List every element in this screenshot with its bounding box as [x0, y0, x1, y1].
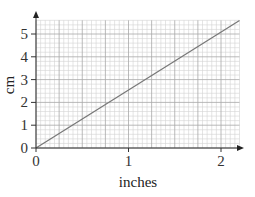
y-tick-label: 0 — [21, 140, 29, 156]
x-axis-label: inches — [119, 174, 157, 190]
x-tick-label: 0 — [32, 153, 40, 169]
y-tick-label: 5 — [21, 26, 29, 42]
y-tick-label: 3 — [21, 72, 29, 88]
y-axis-arrow-icon — [33, 11, 39, 18]
x-axis-arrow-icon — [237, 145, 244, 151]
y-tick-label: 1 — [21, 117, 29, 133]
y-tick-label: 2 — [21, 94, 29, 110]
y-axis-label: cm — [1, 76, 17, 95]
x-tick-label: 1 — [125, 153, 133, 169]
inches-to-cm-chart: 012012345 inches cm — [0, 0, 255, 197]
x-tick-label: 2 — [217, 153, 225, 169]
y-tick-label: 4 — [21, 49, 29, 65]
